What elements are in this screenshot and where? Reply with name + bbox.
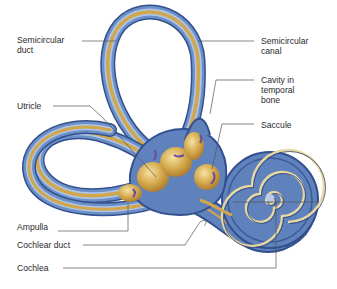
label-semicircular-canal: Semicircular canal	[261, 36, 308, 56]
label-cochlear-duct: Cochlear duct	[17, 240, 70, 250]
cochlea-spiral	[222, 150, 326, 248]
label-semicircular-duct: Semicircular duct	[17, 35, 64, 55]
label-cavity-in-temporal-bone: Cavity in temporal bone	[261, 75, 294, 105]
label-utricle: Utricle	[17, 101, 41, 111]
label-ampulla: Ampulla	[17, 222, 48, 232]
label-cochlea: Cochlea	[17, 263, 49, 273]
ampulla	[118, 184, 142, 202]
saccule	[194, 164, 220, 190]
inner-ear-diagram: Semicircular duct Utricle Ampulla Cochle…	[0, 0, 337, 289]
label-saccule: Saccule	[261, 120, 292, 130]
